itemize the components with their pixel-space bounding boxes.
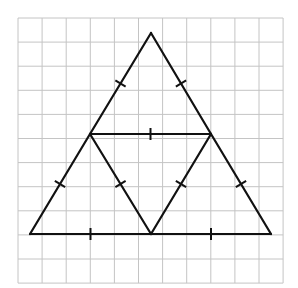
equal-length-tick-marks	[55, 80, 246, 240]
tick-mark-inner-left	[115, 181, 125, 187]
square-grid	[18, 18, 283, 283]
triangle-diagram	[0, 0, 298, 288]
tick-mark-inner-right	[176, 181, 186, 187]
tick-mark-mid-right-to-base-right	[236, 181, 246, 187]
tick-mark-apex-to-mid-left	[115, 80, 125, 86]
tick-mark-mid-left-to-base-left	[55, 181, 65, 187]
